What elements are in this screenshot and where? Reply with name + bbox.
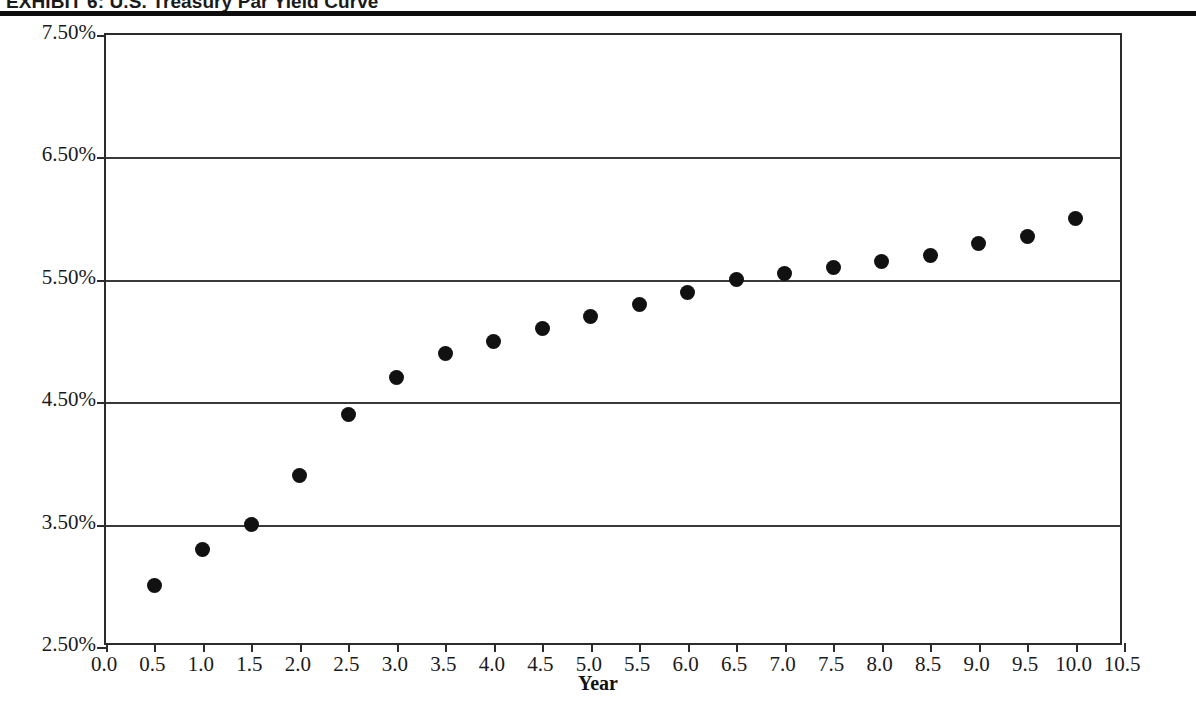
x-axis-tick: [348, 643, 350, 652]
x-axis-title: Year: [0, 672, 1196, 695]
y-axis-tick-labels: 2.50%3.50%4.50%5.50%6.50%7.50%: [0, 33, 96, 645]
x-axis-tick: [397, 643, 399, 652]
x-axis-tick: [591, 643, 593, 652]
data-point: [874, 254, 889, 269]
data-point: [244, 517, 259, 532]
data-point: [583, 309, 598, 324]
x-axis-tick: [251, 643, 253, 652]
data-point: [389, 370, 404, 385]
y-axis-tick-label: 5.50%: [42, 267, 96, 288]
x-axis-tick: [785, 643, 787, 652]
data-point: [147, 578, 162, 593]
data-point: [195, 542, 210, 557]
x-axis-tick: [736, 643, 738, 652]
data-point: [438, 346, 453, 361]
y-axis-tick-label: 3.50%: [42, 512, 96, 533]
y-axis-tick-label: 4.50%: [42, 389, 96, 410]
data-point: [292, 468, 307, 483]
x-axis-tick: [882, 643, 884, 652]
gridline-horizontal: [106, 402, 1120, 404]
data-point: [486, 334, 501, 349]
gridline-horizontal: [106, 157, 1120, 159]
x-axis-tick: [1027, 643, 1029, 652]
chart-container: 2.50%3.50%4.50%5.50%6.50%7.50% 0.00.51.0…: [0, 17, 1196, 704]
x-axis-tick: [639, 643, 641, 652]
y-axis-tick: [97, 525, 106, 527]
x-axis-tick: [542, 643, 544, 652]
plot-area: [104, 33, 1122, 645]
y-axis-tick: [97, 35, 106, 37]
x-axis-tick: [1124, 643, 1126, 652]
data-point: [923, 248, 938, 263]
x-axis-tick: [979, 643, 981, 652]
data-point: [971, 236, 986, 251]
x-axis-tick: [930, 643, 932, 652]
header-divider: [0, 11, 1196, 16]
y-axis-tick: [97, 647, 106, 649]
x-axis-tick: [154, 643, 156, 652]
y-axis-tick: [97, 402, 106, 404]
x-axis-tick: [1076, 643, 1078, 652]
x-axis-tick: [688, 643, 690, 652]
x-axis-tick: [833, 643, 835, 652]
y-axis-tick-label: 7.50%: [42, 22, 96, 43]
x-axis-tick: [300, 643, 302, 652]
x-axis-tick: [494, 643, 496, 652]
data-point: [729, 272, 744, 287]
data-point: [1068, 211, 1083, 226]
x-axis-tick: [106, 643, 108, 652]
y-axis-tick: [97, 280, 106, 282]
exhibit-header: EXHIBIT 6: U.S. Treasury Par Yield Curve: [0, 0, 1196, 17]
y-axis-tick: [97, 157, 106, 159]
x-axis-tick: [203, 643, 205, 652]
x-axis-tick: [445, 643, 447, 652]
data-point: [680, 285, 695, 300]
data-point: [1020, 229, 1035, 244]
y-axis-tick-label: 6.50%: [42, 144, 96, 165]
data-point: [826, 260, 841, 275]
data-point: [535, 321, 550, 336]
data-point: [341, 407, 356, 422]
gridline-horizontal: [106, 280, 1120, 282]
data-point: [632, 297, 647, 312]
y-axis-tick-label: 2.50%: [42, 634, 96, 655]
